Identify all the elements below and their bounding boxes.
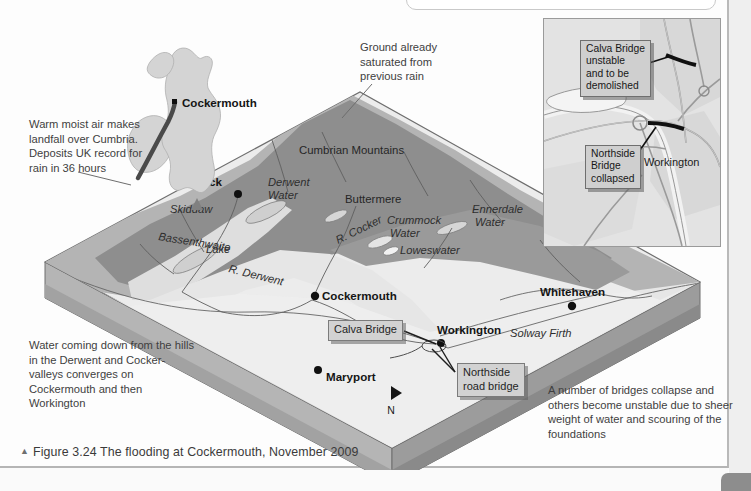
label-ennerdale-2: Water [475,216,506,228]
inset-map-workington: Calva Bridge unstable and to be demolish… [543,18,721,247]
label-ennerdale-1: Ennerdale [472,203,523,215]
uk-inset-cockermouth-dot [172,99,177,104]
caption-triangle-icon: ▲ [20,446,29,456]
annotation-water-converges: Water coming down from the hills in the … [29,338,197,411]
label-crummock-2: Water [390,227,421,239]
label-cumbrian-mountains: Cumbrian Mountains [299,144,404,156]
town-dot-keswick [234,190,242,198]
inset-label-workington: Workington [644,156,699,168]
north-arrow-label: N [387,404,395,416]
label-workington: Workington [437,323,501,336]
town-dot-maryport [314,366,322,374]
town-dot-cockermouth [311,292,319,300]
annotation-ground-saturated: Ground already saturated from previous r… [360,40,470,84]
town-dot-whitehaven [568,302,576,310]
label-loweswater: Loweswater [400,244,461,256]
label-crummock-1: Crummock [387,214,442,226]
label-cockermouth: Cockermouth [322,289,397,302]
page-bottom-margin [0,468,728,491]
label-buttermere: Buttermere [345,193,401,205]
annotation-bridges-collapse: A number of bridges collapse and others … [548,383,738,441]
page-canvas: Cumbrian Mountains Buttermere Derwent Wa… [0,0,751,491]
page-corner-tab [721,473,751,491]
callout-northside-bridge-inset[interactable]: Northside Bridge collapsed [585,145,641,189]
callout-calva-bridge-main[interactable]: Calva Bridge [328,320,403,341]
label-derwent-water-1: Derwent [268,176,311,188]
uk-inset-cockermouth-label: Cockermouth [182,96,257,109]
callout-northside-road-bridge-main[interactable]: Northside road bridge [457,363,525,397]
callout-calva-bridge-inset[interactable]: Calva Bridge unstable and to be demolish… [580,40,651,97]
label-maryport: Maryport [326,370,376,383]
label-bassenthwaite-lake: Lake [206,243,230,255]
figure-caption: ▲Figure 3.24 The flooding at Cockermouth… [20,445,358,459]
label-derwent-water-2: Water [268,189,299,201]
annotation-warm-moist-air: Warm moist air makes landfall over Cumbr… [29,117,149,175]
label-solway-firth: Solway Firth [510,327,572,339]
label-whitehaven: Whitehaven [540,285,605,298]
caption-text: Figure 3.24 The flooding at Cockermouth,… [33,445,358,459]
